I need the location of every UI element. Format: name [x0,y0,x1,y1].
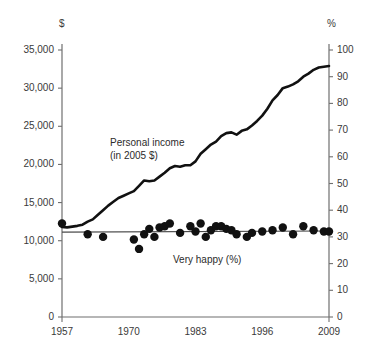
right-axis-tick-label: 50 [337,178,348,189]
left-axis-tick-label: 20,000 [0,158,54,169]
very-happy-data-point [83,230,91,238]
very-happy-data-point [299,222,307,230]
very-happy-scatter-points [58,219,333,253]
x-axis-ticks [62,317,329,322]
very-happy-data-point [268,226,276,234]
very-happy-data-point [150,233,158,241]
very-happy-data-point [248,229,256,237]
right-axis-tick-label: 60 [337,151,348,162]
very-happy-data-point [58,219,66,227]
x-axis-tick-label: 1996 [242,326,282,337]
left-axis-tick-label: 35,000 [0,44,54,55]
very-happy-data-point [202,233,210,241]
x-axis-tick-label: 1983 [176,326,216,337]
very-happy-data-point [130,235,138,243]
right-axis-tick-label: 40 [337,204,348,215]
right-axis-tick-label: 10 [337,284,348,295]
left-axis-tick-label: 5,000 [0,273,54,284]
left-axis-tick-label: 0 [0,311,54,322]
right-axis-tick-label: 80 [337,97,348,108]
very-happy-data-point [191,227,199,235]
very-happy-data-point [196,219,204,227]
very-happy-data-point [309,226,317,234]
very-happy-data-point [145,225,153,233]
personal-income-line [62,66,329,227]
very-happy-data-point [325,227,333,235]
right-axis-tick-label: 0 [337,311,343,322]
very-happy-data-point [289,230,297,238]
left-axis-tick-label: 10,000 [0,235,54,246]
very-happy-data-point [258,227,266,235]
right-axis-tick-label: 20 [337,258,348,269]
right-axis-tick-label: 90 [337,71,348,82]
personal-income-annotation: Personal income (in 2005 $) [110,136,184,162]
very-happy-data-point [166,219,174,227]
left-axis-tick-label: 30,000 [0,82,54,93]
x-axis-tick-label: 2009 [309,326,349,337]
personal-income-annotation-line1: Personal income [110,136,184,149]
very-happy-annotation: Very happy (%) [173,253,241,266]
personal-income-annotation-line2: (in 2005 $) [110,149,184,162]
left-axis-tick-label: 15,000 [0,197,54,208]
right-axis-tick-label: 70 [337,124,348,135]
very-happy-data-point [176,229,184,237]
x-axis-tick-label: 1957 [42,326,82,337]
right-axis-tick-label: 100 [337,44,354,55]
chart-figure: $ % 05,00010,00015,00020,00025,00030,000… [0,0,373,361]
very-happy-data-point [279,223,287,231]
right-axis-tick-label: 30 [337,231,348,242]
very-happy-data-point [232,230,240,238]
left-axis-tick-label: 25,000 [0,120,54,131]
plot-area [0,0,373,361]
very-happy-data-point [135,245,143,253]
very-happy-data-point [99,233,107,241]
x-axis-tick-label: 1970 [109,326,149,337]
